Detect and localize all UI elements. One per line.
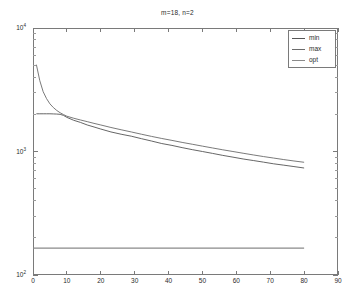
figure-canvas: m=18, n=2 0102030405060708090 102103104 …	[0, 0, 355, 302]
y-tick-label: 104	[4, 24, 26, 31]
y-tick-label: 102	[4, 271, 26, 278]
legend-item-max: max	[289, 44, 335, 55]
legend-label-min: min	[309, 35, 319, 42]
legend-swatch-max-icon	[292, 49, 305, 50]
x-tick-label: 80	[292, 277, 316, 284]
x-tick-label: 20	[89, 277, 113, 284]
x-tick-label: 30	[123, 277, 147, 284]
x-tick-label: 60	[224, 277, 248, 284]
x-tick-label: 70	[258, 277, 282, 284]
legend-label-opt: opt	[309, 57, 318, 64]
legend-item-opt: opt	[289, 55, 335, 66]
legend-swatch-min-icon	[292, 38, 305, 39]
x-tick-label: 10	[55, 277, 79, 284]
series-line-min	[36, 114, 304, 168]
y-tick-label: 103	[4, 148, 26, 155]
legend-swatch-opt-icon	[292, 60, 305, 61]
x-tick-label: 0	[21, 277, 45, 284]
x-tick-label: 90	[326, 277, 350, 284]
x-tick-label: 50	[190, 277, 214, 284]
x-tick-label: 40	[157, 277, 181, 284]
legend-label-max: max	[309, 46, 321, 53]
series-line-max	[36, 65, 304, 163]
chart-legend: min max opt	[288, 30, 336, 68]
legend-item-min: min	[289, 33, 335, 44]
